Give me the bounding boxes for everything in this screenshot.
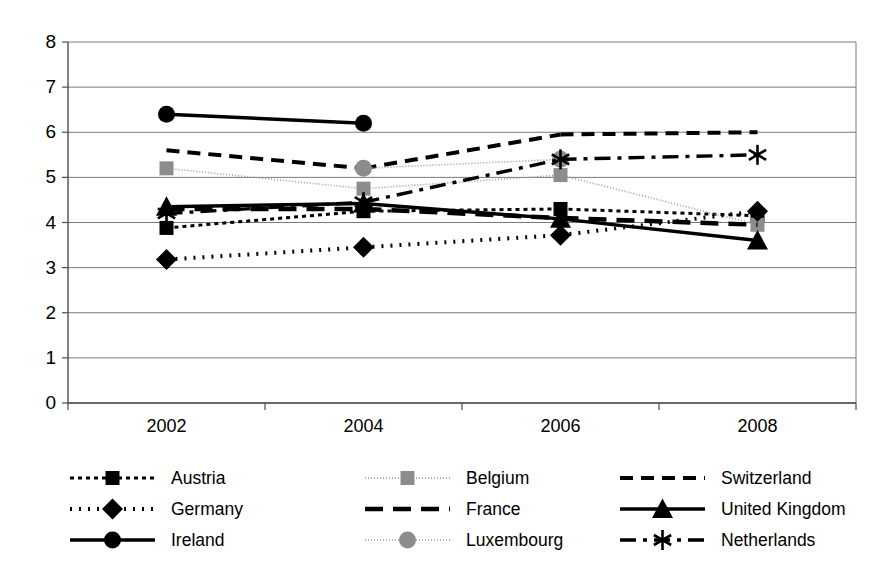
legend-marker-sample [401,471,415,485]
y-tick-label-0: 0 [45,392,56,413]
x-tick-label-2006: 2006 [540,416,580,436]
series-line-segment [561,155,758,160]
legend-marker-sample [104,532,121,549]
chart-legend: AustriaBelgiumSwitzerlandGermanyFranceUn… [70,468,846,550]
legend-label: United Kingdom [721,499,846,519]
data-point-marker [160,161,174,175]
data-point-marker [747,201,768,222]
legend-item-germany[interactable]: Germany [70,499,243,520]
data-point-marker [158,106,175,123]
legend-item-luxembourg[interactable]: Luxembourg [365,530,563,550]
legend-item-austria[interactable]: Austria [70,468,226,488]
data-point-marker [156,249,177,270]
data-point-marker [353,237,374,258]
legend-marker-sample [106,471,120,485]
series-switzerland [167,132,758,168]
legend-label: Ireland [171,530,225,550]
data-point-marker [749,145,766,165]
series-line-segment [167,114,364,123]
y-tick-label-7: 7 [45,76,56,97]
series-line-segment [364,235,561,247]
legend-item-netherlands[interactable]: Netherlands [620,530,816,550]
y-tick-label-4: 4 [45,212,56,233]
series-line-segment [364,159,561,202]
chart-canvas: 012345678 2002200420062008 AustriaBelgiu… [0,0,893,574]
y-tick-label-1: 1 [45,347,56,368]
legend-item-united-kingdom[interactable]: United Kingdom [620,499,846,519]
legend-item-switzerland[interactable]: Switzerland [620,468,811,488]
series-line-segment [167,168,364,188]
y-tick-label-6: 6 [45,121,56,142]
legend-item-france[interactable]: France [365,499,520,519]
x-axis-ticks [68,403,856,410]
y-tick-label-5: 5 [45,166,56,187]
legend-label: Luxembourg [466,530,563,550]
y-tick-label-3: 3 [45,257,56,278]
data-series [156,106,768,270]
series-line-segment [167,247,364,259]
legend-item-belgium[interactable]: Belgium [365,468,529,488]
x-axis-labels: 2002200420062008 [146,416,777,436]
series-ireland [158,106,372,132]
series-line-segment [167,211,364,228]
legend-item-ireland[interactable]: Ireland [70,530,225,550]
legend-label: France [466,499,520,519]
y-tick-label-8: 8 [45,31,56,52]
legend-label: Netherlands [721,530,816,550]
y-tick-label-2: 2 [45,302,56,323]
data-point-marker [355,160,372,177]
legend-label: Austria [171,468,226,488]
series-line-segment [561,209,758,216]
y-axis-ticks [62,42,68,403]
legend-label: Germany [171,499,243,519]
data-point-marker [554,168,568,182]
x-tick-label-2002: 2002 [146,416,186,436]
legend-marker-sample [102,499,123,520]
legend-marker-sample [399,532,416,549]
line-chart: 012345678 2002200420062008 AustriaBelgiu… [0,0,893,574]
legend-label: Belgium [466,468,529,488]
data-point-marker [355,115,372,132]
series-line-segment [167,204,364,207]
series-line-segment [364,135,561,169]
legend-label: Switzerland [721,468,811,488]
x-tick-label-2008: 2008 [737,416,777,436]
series-line-segment [167,150,364,168]
x-tick-label-2004: 2004 [343,416,383,436]
y-axis-labels: 012345678 [45,31,56,413]
